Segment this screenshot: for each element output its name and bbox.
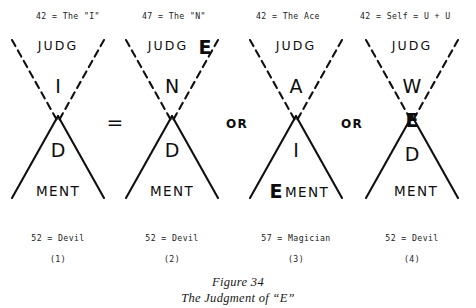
d1-base-word: MENT	[36, 185, 80, 199]
index-label-3: (3)	[288, 254, 304, 264]
bottom-annotation-1: 52 = Devil	[31, 233, 84, 243]
d4-lower-letter: D	[405, 145, 420, 164]
top-annotation-4: 42 = Self = U + U	[360, 11, 451, 21]
top-annotation-1: 42 = The "I"	[36, 11, 100, 21]
d1-upper-letter: I	[55, 77, 61, 96]
figure-page: 42 = The "I" 47 = The "N" 42 = The Ace 4…	[0, 0, 476, 308]
d2-upper-letter: N	[165, 77, 179, 96]
bottom-annotation-3: 57 = Magician	[261, 233, 330, 243]
figure-caption-line-2: The Judgment of “E”	[0, 290, 476, 306]
bottom-annotation-row: 52 = Devil 52 = Devil 57 = Magician 52 =…	[0, 233, 476, 247]
figure-caption: Figure 34 The Judgment of “E”	[0, 274, 476, 306]
top-annotation-2: 47 = The "N"	[142, 11, 206, 21]
d4-base-word: MENT	[394, 185, 438, 199]
index-label-2: (2)	[164, 254, 180, 264]
index-label-4: (4)	[404, 254, 420, 264]
d1-lower-letter: D	[51, 141, 66, 160]
d1-top-word: JUDG	[38, 40, 79, 53]
bottom-annotation-2: 52 = Devil	[145, 233, 198, 243]
index-label-row: (1) (2) (3) (4)	[0, 254, 476, 268]
operator-or-2: OR	[341, 118, 363, 130]
d3-base-word: MENT	[285, 186, 329, 200]
diagram-stage: JUDG I D MENT = JUDG E N D MENT OR JUDG …	[0, 34, 476, 224]
top-annotation-row: 42 = The "I" 47 = The "N" 42 = The Ace 4…	[0, 11, 476, 25]
d4-upper-letter: W	[403, 77, 422, 96]
figure-caption-line-1: Figure 34	[0, 274, 476, 290]
d4-top-word: JUDG	[392, 40, 433, 53]
operator-equals: =	[107, 112, 124, 132]
index-label-1: (1)	[50, 254, 66, 264]
operator-or-1: OR	[226, 118, 248, 130]
d4-center-letter: E	[406, 111, 419, 130]
top-annotation-3: 42 = The Ace	[256, 11, 320, 21]
d2-base-word: MENT	[150, 185, 194, 199]
d3-lower-letter: I	[293, 141, 299, 160]
d3-upper-letter: A	[290, 77, 303, 96]
d2-top-suffix-E: E	[199, 38, 212, 57]
bottom-annotation-4: 52 = Devil	[385, 233, 438, 243]
d3-base-prefix-E: E	[270, 182, 283, 201]
d3-top-word: JUDG	[276, 40, 317, 53]
d2-lower-letter: D	[165, 141, 180, 160]
d2-top-word: JUDG	[148, 40, 189, 53]
